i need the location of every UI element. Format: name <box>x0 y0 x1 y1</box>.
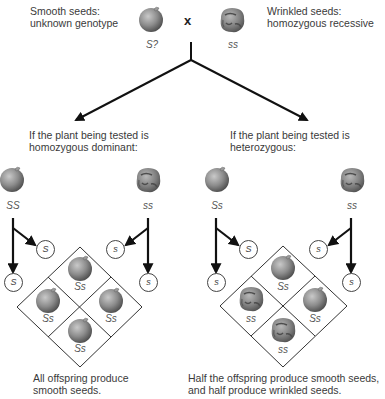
smooth-pea-icon <box>36 288 60 313</box>
right-parent1-genotype: Ss <box>202 200 232 211</box>
cross-symbol: x <box>184 13 191 28</box>
offspring-genotype: ss <box>236 313 266 324</box>
gamete-arrow <box>329 228 351 245</box>
left-case-heading: If the plant being tested is <box>29 129 149 141</box>
smooth-pea-icon <box>303 287 327 312</box>
left-conclusion-line2: smooth seeds. <box>33 384 101 396</box>
wrinkled-seeds-label: Wrinkled seeds: <box>267 5 342 17</box>
offspring-genotype: Ss <box>300 313 330 324</box>
right-conclusion: Half the offspring produce smooth seeds, <box>188 372 379 384</box>
gamete-circle: S <box>36 240 55 259</box>
gamete-circle: s <box>207 273 226 292</box>
unknown-genotype-label: S? <box>137 39 167 50</box>
left-parent2-genotype: ss <box>133 200 163 211</box>
gamete-circle: s <box>106 240 125 259</box>
gamete-circle: S <box>4 273 23 292</box>
gamete-arrow <box>126 228 148 245</box>
gamete-circle: s <box>139 273 158 292</box>
offspring-genotype: Ss <box>65 281 95 292</box>
wrinkled-seeds-sublabel: homozygous recessive <box>267 17 374 29</box>
diagram-canvas <box>0 0 385 399</box>
smooth-pea-icon <box>0 167 24 192</box>
offspring-genotype: Ss <box>96 313 126 324</box>
gamete-circle: s <box>309 240 328 259</box>
smooth-pea-icon <box>139 7 163 32</box>
offspring-genotype: Ss <box>268 281 298 292</box>
right-parent2-genotype: ss <box>337 200 367 211</box>
wrinkled-pea-icon <box>272 318 296 342</box>
wrinkled-pea-icon <box>240 287 264 311</box>
smooth-seeds-label: Smooth seeds: <box>30 5 100 17</box>
right-case-subheading: heterozygous: <box>230 141 296 153</box>
right-conclusion-line2: and half produce wrinkled seeds. <box>188 384 342 396</box>
offspring-genotype: Ss <box>65 343 95 354</box>
left-conclusion: All offspring produce <box>33 372 129 384</box>
smooth-seeds-sublabel: unknown genotype <box>30 17 118 29</box>
left-case-subheading: homozygous dominant: <box>29 141 138 153</box>
arrow-to-homozygous <box>76 60 191 120</box>
gamete-circle: s <box>342 273 361 292</box>
gamete-arrow <box>13 228 35 245</box>
gamete-arrow <box>216 228 238 245</box>
wrinkled-pea-icon <box>341 168 365 192</box>
recessive-genotype-label: ss <box>218 39 248 50</box>
arrow-to-heterozygous <box>191 60 307 120</box>
wrinkled-pea-icon <box>137 168 161 192</box>
wrinkled-pea-icon <box>221 8 245 32</box>
smooth-pea-icon <box>99 288 123 313</box>
smooth-pea-icon <box>271 255 295 280</box>
smooth-pea-icon <box>68 318 92 343</box>
offspring-genotype: Ss <box>33 313 63 324</box>
left-parent1-genotype: SS <box>0 200 28 211</box>
smooth-pea-icon <box>68 256 92 281</box>
gamete-circle: S <box>239 240 258 259</box>
smooth-pea-icon <box>205 167 229 192</box>
right-case-heading: If the plant being tested is <box>230 129 350 141</box>
offspring-genotype: ss <box>268 344 298 355</box>
